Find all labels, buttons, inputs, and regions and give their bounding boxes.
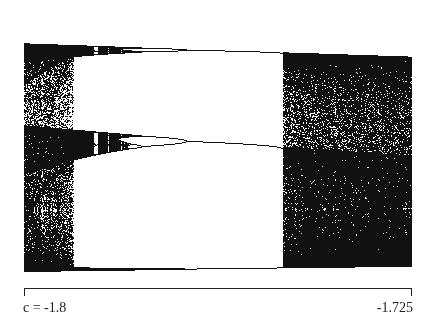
x-axis-tick-left [24,288,25,296]
bifurcation-plot [0,0,433,334]
x-axis-label-left: c = -1.8 [23,300,66,316]
x-axis-line [24,288,412,289]
x-axis-label-right: -1.725 [377,300,413,316]
x-axis-tick-right [411,288,412,296]
